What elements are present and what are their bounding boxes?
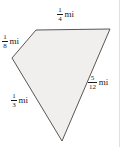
fraction-denominator: 4 <box>57 16 63 23</box>
unit-label: mi <box>99 78 109 87</box>
fraction-denominator: 12 <box>88 84 97 91</box>
fraction-denominator: 3 <box>11 102 17 109</box>
unit-label: mi <box>65 10 75 19</box>
fraction-one-third: 1 3 <box>11 93 17 110</box>
figure-container: 1 4 mi 1 8 mi 1 3 mi 5 12 mi <box>0 0 124 147</box>
fraction-numerator: 1 <box>11 93 17 100</box>
fraction-numerator: 1 <box>57 7 63 14</box>
fraction-one-fourth: 1 4 <box>57 7 63 24</box>
fraction-numerator: 1 <box>2 34 8 41</box>
side-label-right: 5 12 mi <box>88 74 108 91</box>
unit-label: mi <box>19 96 29 105</box>
fraction-five-twelfths: 5 12 <box>88 75 97 92</box>
fraction-one-eighth: 1 8 <box>2 34 8 51</box>
side-label-upper-left: 1 8 mi <box>2 33 19 50</box>
side-label-lower-left: 1 3 mi <box>11 92 28 109</box>
fraction-denominator: 8 <box>2 43 8 50</box>
side-label-top: 1 4 mi <box>57 6 74 23</box>
unit-label: mi <box>10 37 20 46</box>
fraction-numerator: 5 <box>90 75 96 82</box>
